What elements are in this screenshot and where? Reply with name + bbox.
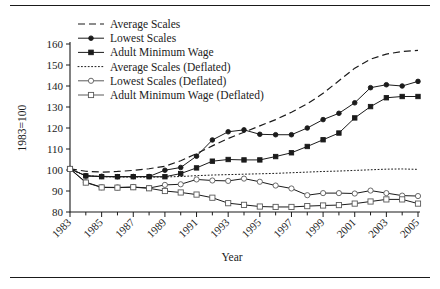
legend-marker-swatch [89, 50, 94, 55]
data-point-marker [273, 154, 277, 158]
y-tick-label: 120 [47, 122, 64, 134]
legend-item[interactable]: Adult Minimum Wage [78, 46, 214, 59]
data-point-marker [242, 128, 247, 133]
data-point-marker [336, 202, 341, 207]
data-point-marker [210, 195, 215, 200]
y-tick-label: 150 [47, 59, 64, 71]
data-point-marker [210, 178, 215, 183]
x-tick-label: 1999 [302, 216, 326, 240]
data-point-marker [178, 190, 183, 195]
x-tick-label: 1989 [144, 216, 168, 240]
x-tick-label: 2001 [334, 216, 358, 240]
legend-marker-swatch [88, 92, 93, 97]
data-point-marker [368, 85, 373, 90]
legend-item[interactable]: Lowest Scales (Deflated) [78, 75, 226, 88]
data-point-marker [178, 182, 183, 187]
x-tick-label: 1997 [271, 216, 295, 240]
data-point-marker [305, 193, 310, 198]
data-point-marker [416, 94, 420, 98]
x-tick-label: 1993 [208, 216, 232, 240]
data-point-marker [305, 144, 309, 148]
data-point-marker [257, 179, 262, 184]
data-point-marker [115, 185, 120, 190]
x-axis-title: Year [221, 251, 242, 263]
data-point-marker [178, 165, 183, 170]
data-point-marker [289, 186, 294, 191]
data-point-marker [194, 192, 199, 197]
data-point-marker [289, 204, 294, 209]
y-tick-label: 90 [52, 185, 64, 197]
data-point-marker [337, 131, 341, 135]
legend-marker-swatch [89, 36, 94, 41]
data-point-marker [242, 158, 246, 162]
data-point-marker [400, 94, 404, 98]
data-point-marker [194, 177, 199, 182]
legend-label: Adult Minimum Wage [110, 46, 214, 59]
legend-marker-swatch [88, 78, 93, 83]
data-point-marker [289, 132, 294, 137]
data-point-marker [336, 191, 341, 196]
figure-container: 8090100110120130140150160198319851987198… [0, 0, 440, 289]
series-line-4 [70, 169, 418, 196]
data-point-marker [194, 166, 198, 170]
data-point-marker [99, 185, 104, 190]
data-point-marker [352, 101, 357, 106]
y-tick-label: 130 [47, 101, 64, 113]
data-point-marker [352, 191, 357, 196]
data-point-marker [241, 176, 246, 181]
data-point-marker [305, 204, 310, 209]
data-point-marker [321, 117, 326, 122]
data-point-marker [289, 151, 293, 155]
data-point-marker [273, 204, 278, 209]
legend-label: Lowest Scales (Deflated) [110, 75, 226, 88]
data-point-marker [163, 168, 168, 173]
data-point-marker [368, 199, 373, 204]
data-point-marker [241, 202, 246, 207]
legend-item[interactable]: Adult Minimum Wage (Deflated) [78, 89, 264, 102]
data-point-marker [131, 185, 136, 190]
y-tick-label: 140 [47, 80, 64, 92]
data-point-marker [305, 126, 310, 131]
data-point-marker [368, 104, 372, 108]
data-point-marker [162, 188, 167, 193]
data-point-marker [337, 111, 342, 116]
data-point-marker [384, 82, 389, 87]
x-tick-label: 1995 [239, 216, 263, 240]
data-point-marker [384, 191, 389, 196]
data-point-marker [194, 154, 199, 159]
data-point-marker [384, 197, 389, 202]
data-point-marker [83, 180, 88, 185]
legend-item[interactable]: Lowest Scales [78, 32, 177, 44]
data-point-marker [146, 186, 151, 191]
x-tick-label: 1985 [81, 216, 105, 240]
legend-label: Average Scales [110, 18, 181, 31]
data-point-marker [353, 116, 357, 120]
data-point-marker [320, 191, 325, 196]
data-point-marker [210, 138, 215, 143]
x-tick-label: 2003 [366, 216, 390, 240]
data-point-marker [368, 188, 373, 193]
data-point-marker [258, 132, 263, 137]
data-point-marker [415, 201, 420, 206]
data-point-marker [352, 201, 357, 206]
x-tick-label: 1987 [113, 216, 137, 240]
legend-label: Average Scales (Deflated) [110, 61, 231, 74]
legend-item[interactable]: Average Scales (Deflated) [78, 61, 231, 74]
y-tick-label: 100 [47, 164, 64, 176]
y-tick-label: 160 [47, 38, 64, 50]
data-point-marker [162, 182, 167, 187]
line-chart: 8090100110120130140150160198319851987198… [0, 0, 440, 289]
legend-item[interactable]: Average Scales [78, 18, 181, 31]
data-point-marker [320, 203, 325, 208]
x-tick-label: 2005 [397, 216, 421, 240]
data-point-marker [226, 129, 231, 134]
legend-label: Adult Minimum Wage (Deflated) [110, 89, 264, 102]
data-point-marker [273, 132, 278, 137]
series-line-5 [70, 169, 418, 207]
data-point-marker [210, 159, 214, 163]
data-point-marker [257, 204, 262, 209]
x-tick-label: 1991 [176, 216, 200, 240]
data-point-marker [258, 158, 262, 162]
data-point-marker [273, 183, 278, 188]
data-point-marker [321, 138, 325, 142]
